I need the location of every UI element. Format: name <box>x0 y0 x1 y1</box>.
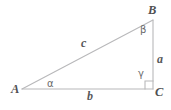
right-angle-marker-icon <box>145 81 153 89</box>
vertex-label-c: C <box>155 86 163 99</box>
triangle-drawing <box>0 0 171 110</box>
angle-label-alpha: α <box>47 79 54 89</box>
vertex-label-a: A <box>11 83 19 96</box>
side-c-line <box>22 20 153 89</box>
side-label-b: b <box>87 90 93 102</box>
side-label-a: a <box>157 53 163 65</box>
side-label-c: c <box>81 37 86 49</box>
angle-label-beta: β <box>140 25 146 35</box>
right-triangle-figure: A B C c a b α β γ <box>0 0 171 110</box>
angle-label-gamma: γ <box>138 69 144 79</box>
vertex-label-b: B <box>148 4 156 17</box>
